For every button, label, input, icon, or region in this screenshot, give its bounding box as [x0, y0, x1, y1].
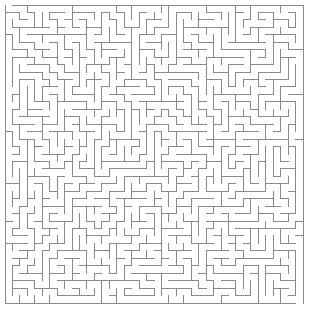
maze-grid	[0, 0, 309, 310]
maze-canvas	[0, 0, 309, 310]
